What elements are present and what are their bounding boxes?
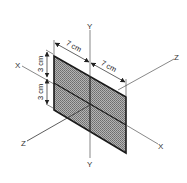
x-axis-label-left: X	[15, 61, 21, 70]
y-axis-label-bottom: Y	[87, 160, 93, 169]
y-axis-label-top: Y	[87, 22, 93, 31]
x-axis-label-right: X	[158, 142, 164, 151]
width-label-left: 7 cm	[64, 38, 83, 54]
z-axis-line-right	[118, 59, 174, 90]
height-label-top: 3 cm	[36, 56, 45, 72]
z-axis-label-right: Z	[174, 53, 179, 62]
width-label-right: 7 cm	[99, 58, 118, 74]
sheet-axes-diagram: Y Y X X Z Z 7 cm 7 cm 3 cm 3 cm	[0, 0, 187, 183]
x-axis-line-right	[126, 125, 158, 144]
height-label-bottom: 3 cm	[36, 84, 45, 100]
z-axis-label-left: Z	[21, 139, 26, 148]
